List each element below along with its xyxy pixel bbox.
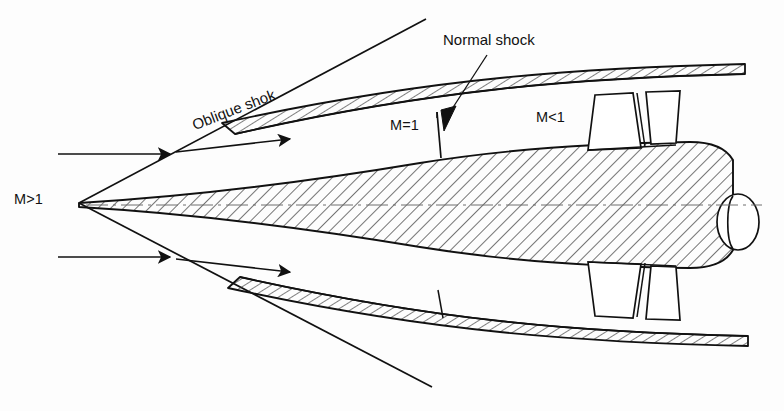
lower-strut-1 [588,262,641,318]
aft-end-cap [717,194,759,250]
lower-struts [588,262,680,320]
label-normal-shock: Normal shock [443,32,535,47]
upper-struts [588,91,680,150]
label-throat-mach: M=1 [390,118,419,133]
upper-deflected-flow-arrow [176,139,290,152]
label-freestream-mach: M>1 [14,192,43,207]
lower-flow-arrows [58,257,290,272]
label-subsonic-mach: M<1 [536,110,565,125]
aft-cap-ellipse [717,194,759,250]
diagram-vector-layer [0,0,784,411]
lower-deflected-flow-arrow [176,259,290,272]
upper-strut-1 [588,93,641,150]
normal-shock-wave [437,106,456,158]
normal-shock-line [437,112,441,158]
normal-shock-wedge [441,106,456,131]
lower-strut-2 [646,266,680,320]
shock-diagram-canvas: M>1 M=1 M<1 Oblique shok Normal shock [0,0,784,411]
upper-strut-2 [646,91,680,144]
